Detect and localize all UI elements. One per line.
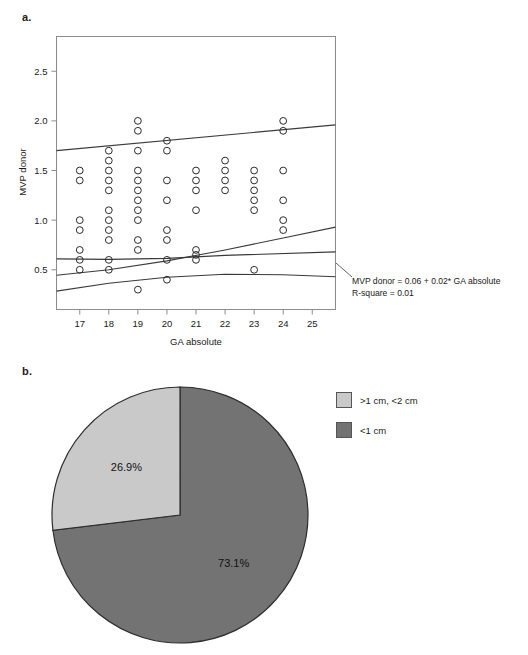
- legend-label-small: <1 cm: [360, 425, 386, 436]
- y-tick-label: 1.0: [34, 215, 47, 226]
- x-axis-title: GA absolute: [170, 336, 222, 347]
- regression-equation-text: MVP donor = 0.06 + 0.02* GA absolute: [352, 276, 501, 286]
- scatter-panel: a. 0.51.01.52.02.5 171819202122232425 GA…: [0, 0, 528, 360]
- legend-swatch-small: [336, 422, 352, 438]
- pie-slice-large: [52, 387, 180, 530]
- pie-panel: b. 73.1%26.9% >1 cm, <2 cm <1 cm: [0, 358, 528, 655]
- plot-frame: [57, 37, 336, 310]
- x-axis-tick-labels: 171819202122232425: [74, 318, 317, 329]
- legend-item-small: <1 cm: [336, 422, 516, 438]
- y-tick-label: 0.5: [34, 264, 47, 275]
- x-axis-ticks: [80, 310, 313, 315]
- annotation-leader-line: [336, 263, 352, 277]
- y-tick-label: 2.5: [34, 66, 47, 77]
- pie-legend: >1 cm, <2 cm <1 cm: [336, 392, 516, 452]
- y-axis-ticks: [52, 71, 57, 270]
- pie-value-small: 73.1%: [218, 557, 249, 569]
- x-tick-label: 25: [307, 318, 318, 329]
- x-tick-label: 22: [220, 318, 231, 329]
- x-tick-label: 23: [249, 318, 260, 329]
- r-square-text: R-square = 0.01: [352, 288, 414, 298]
- x-tick-label: 18: [104, 318, 115, 329]
- y-tick-label: 2.0: [34, 115, 47, 126]
- x-tick-label: 19: [133, 318, 144, 329]
- y-axis-title: MVP donor: [17, 148, 28, 195]
- x-tick-label: 20: [162, 318, 173, 329]
- pie-slices: [52, 387, 308, 643]
- y-tick-label: 1.5: [34, 165, 47, 176]
- legend-swatch-large: [336, 392, 352, 408]
- x-tick-label: 21: [191, 318, 202, 329]
- y-axis-tick-labels: 0.51.01.52.02.5: [34, 66, 47, 276]
- x-tick-label: 17: [74, 318, 85, 329]
- legend-item-large: >1 cm, <2 cm: [336, 392, 516, 408]
- scatter-plot: 0.51.01.52.02.5 171819202122232425 GA ab…: [0, 0, 528, 360]
- pie-value-large: 26.9%: [111, 461, 142, 473]
- x-tick-label: 24: [278, 318, 289, 329]
- legend-label-large: >1 cm, <2 cm: [360, 395, 418, 406]
